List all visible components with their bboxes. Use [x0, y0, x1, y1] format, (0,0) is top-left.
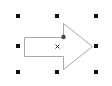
resize-handle-top-left[interactable]	[16, 14, 20, 18]
drawing-canvas[interactable]	[0, 0, 112, 86]
right-arrow-shape[interactable]	[25, 24, 93, 70]
resize-handle-top-center[interactable]	[55, 14, 59, 18]
resize-handle-bottom-center[interactable]	[55, 70, 59, 74]
resize-handle-top-right[interactable]	[94, 14, 98, 18]
resize-handle-middle-left[interactable]	[16, 44, 20, 48]
resize-handle-bottom-right[interactable]	[94, 70, 98, 74]
shape-adjust-handle[interactable]	[61, 35, 65, 39]
resize-handle-bottom-left[interactable]	[16, 70, 20, 74]
resize-handle-middle-right[interactable]	[94, 44, 98, 48]
